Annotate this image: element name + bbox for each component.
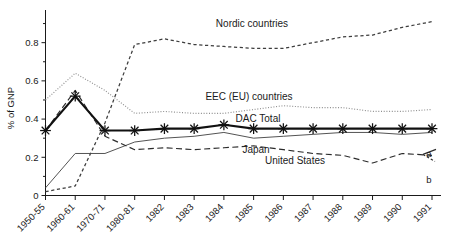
line-chart: 00.20.40.60.8 % of GNP 1950-551960-61197…	[0, 0, 451, 249]
series-label-united-states: United States	[265, 155, 325, 166]
y-axis-ticks	[42, 24, 46, 196]
annotation-a: a	[426, 148, 432, 159]
x-tick-label: 1983	[173, 201, 196, 224]
x-tick-label: 1985	[232, 201, 255, 224]
series-label-japan: Japan	[242, 144, 269, 155]
annotation-b: b	[426, 174, 431, 185]
x-tick-label: 1987	[292, 201, 315, 224]
y-tick-label: 0.6	[25, 75, 38, 86]
series-label-nordic-countries: Nordic countries	[216, 18, 288, 29]
chart-page: 00.20.40.60.8 % of GNP 1950-551960-61197…	[0, 0, 451, 249]
data-point-marker-star	[248, 123, 259, 134]
data-point-marker-star	[278, 123, 289, 134]
x-tick-label: 1960-61	[44, 201, 76, 233]
y-tick-label: 0.4	[25, 113, 38, 124]
x-tick-label: 1950-55	[14, 201, 46, 233]
y-axis: 00.20.40.60.8 % of GNP	[5, 10, 46, 201]
x-axis: 1950-551960-611970-711980-81198219831984…	[14, 196, 441, 234]
data-point-marker-star	[100, 125, 111, 136]
x-tick-label: 1986	[262, 201, 285, 224]
y-tick-label: 0.8	[25, 37, 38, 48]
data-point-marker-star	[129, 125, 140, 136]
x-axis-tick-labels: 1950-551960-611970-711980-81198219831984…	[14, 201, 433, 233]
data-point-marker-star	[189, 123, 200, 134]
series-line-japan	[46, 132, 433, 187]
data-point-marker-star	[308, 123, 319, 134]
series-label-dac-total: DAC Total	[236, 113, 281, 124]
series-line-nordic-countries	[46, 22, 433, 192]
data-point-marker-star	[40, 125, 51, 136]
data-point-marker-star	[159, 123, 170, 134]
x-tick-label: 1988	[321, 201, 344, 224]
data-point-marker-star	[427, 123, 438, 134]
x-tick-label: 1970-71	[74, 201, 106, 233]
x-tick-label: 1989	[351, 201, 374, 224]
data-point-marker-star	[367, 123, 378, 134]
series-labels: Nordic countries EEC (EU) countries DAC …	[205, 18, 325, 166]
x-tick-label: 1984	[203, 201, 226, 224]
x-tick-label: 1982	[143, 201, 166, 224]
data-point-marker-star	[218, 119, 229, 130]
x-tick-label: 1991	[411, 201, 434, 224]
y-tick-label: 0	[33, 190, 38, 201]
data-point-marker-star	[337, 123, 348, 134]
x-tick-label: 1980-81	[104, 201, 136, 233]
annotations: ab	[426, 148, 432, 185]
y-axis-tick-labels: 00.20.40.60.8	[25, 37, 38, 201]
data-point-marker-star	[397, 123, 408, 134]
series-label-eec-eu-countries: EEC (EU) countries	[205, 91, 292, 102]
series-layer	[40, 22, 437, 192]
y-tick-label: 0.2	[25, 152, 38, 163]
x-tick-label: 1990	[381, 201, 404, 224]
y-axis-title: % of GNP	[5, 87, 16, 129]
x-axis-ticks	[46, 196, 433, 201]
data-point-marker-star	[70, 91, 81, 102]
